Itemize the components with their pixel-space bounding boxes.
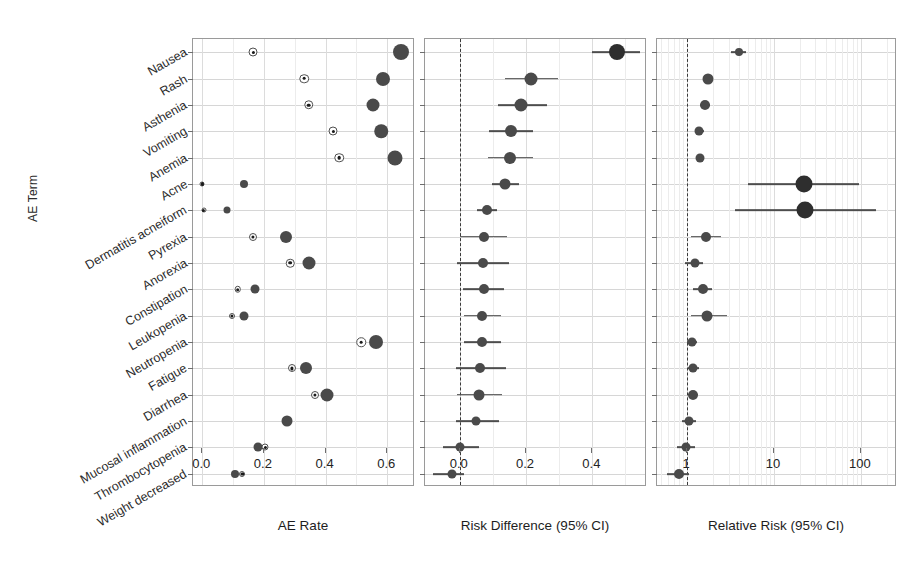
vertical-gridline — [835, 39, 836, 485]
horizontal-gridline — [425, 342, 645, 343]
y-axis-tick — [188, 52, 193, 53]
risk-difference-estimate-marker — [479, 232, 489, 242]
vertical-gridline — [739, 39, 740, 485]
ae-rate-treatment-marker — [282, 416, 293, 427]
ae-rate-treatment-marker — [223, 207, 230, 214]
relative-risk-estimate-marker — [690, 259, 699, 268]
marker-core — [307, 103, 310, 106]
risk-difference-estimate-marker — [482, 205, 492, 215]
ae-rate-control-marker — [249, 233, 257, 241]
y-axis-tick — [652, 52, 657, 53]
ae-rate-control-marker — [329, 127, 338, 136]
ae-rate-treatment-marker — [280, 231, 292, 243]
y-axis-tick — [188, 184, 193, 185]
y-axis-tick — [420, 105, 425, 106]
ae-rate-treatment-marker — [376, 72, 390, 86]
vertical-gridline — [729, 39, 730, 485]
plot-area-ae-rate — [193, 39, 413, 485]
y-axis-tick — [652, 105, 657, 106]
horizontal-gridline — [425, 237, 645, 238]
risk-difference-estimate-marker — [504, 152, 516, 164]
plot-area-risk-difference — [425, 39, 645, 485]
vertical-gridline — [774, 39, 775, 485]
marker-core — [201, 182, 204, 185]
y-axis-tick — [188, 342, 193, 343]
ae-rate-treatment-marker — [387, 150, 402, 165]
x-axis-tick-label: 0.6 — [377, 456, 395, 471]
marker-core — [302, 77, 305, 80]
vertical-gridline — [842, 39, 843, 485]
y-axis-tick — [188, 289, 193, 290]
ae-rate-treatment-marker — [300, 362, 312, 374]
horizontal-gridline — [657, 131, 895, 132]
horizontal-gridline — [657, 105, 895, 106]
y-axis-tick — [420, 158, 425, 159]
y-axis-tick — [652, 184, 657, 185]
marker-core — [252, 51, 255, 54]
horizontal-gridline — [425, 210, 645, 211]
ae-rate-treatment-marker — [231, 470, 239, 478]
relative-risk-estimate-marker — [795, 175, 812, 192]
y-axis-tick — [188, 368, 193, 369]
ae-rate-control-marker — [304, 100, 314, 110]
legend-cropped — [258, 2, 818, 16]
panel-ae-rate — [192, 38, 414, 486]
y-axis-tick — [420, 368, 425, 369]
vertical-gridline — [861, 39, 862, 485]
y-axis-tick — [188, 263, 193, 264]
vertical-gridline — [826, 39, 827, 485]
y-axis-tick — [420, 79, 425, 80]
y-axis-tick — [188, 316, 193, 317]
ae-rate-control-marker — [311, 391, 319, 399]
plot-area-relative-risk — [657, 39, 895, 485]
y-axis-tick — [652, 342, 657, 343]
marker-core — [313, 393, 316, 396]
y-axis-tick — [188, 158, 193, 159]
x-axis-tick-label: 10 — [766, 456, 780, 471]
x-axis-label-relative-risk: Relative Risk (95% CI) — [656, 518, 896, 533]
risk-difference-estimate-marker — [478, 258, 488, 268]
vertical-gridline — [559, 39, 560, 485]
y-axis-tick — [188, 131, 193, 132]
horizontal-gridline — [193, 158, 413, 159]
relative-risk-estimate-marker — [797, 202, 814, 219]
y-axis-tick — [652, 158, 657, 159]
risk-difference-estimate-marker — [525, 72, 538, 85]
x-axis-tick-label: 0.0 — [450, 456, 468, 471]
relative-risk-estimate-marker — [688, 338, 697, 347]
horizontal-gridline — [425, 158, 645, 159]
relative-risk-estimate-marker — [703, 73, 714, 84]
ae-rate-control-marker — [288, 364, 296, 372]
ae-rate-control-marker — [286, 259, 295, 268]
y-axis-tick — [652, 395, 657, 396]
vertical-gridline — [592, 39, 593, 485]
ae-rate-treatment-marker — [369, 335, 383, 349]
y-axis-tick — [188, 421, 193, 422]
relative-risk-estimate-marker — [689, 364, 698, 373]
horizontal-gridline — [657, 474, 895, 475]
ae-rate-treatment-marker — [321, 388, 334, 401]
marker-core — [332, 130, 335, 133]
vertical-gridline — [857, 39, 858, 485]
vertical-gridline — [295, 39, 296, 485]
y-axis-tick — [420, 184, 425, 185]
relative-risk-estimate-marker — [735, 48, 743, 56]
marker-core — [290, 367, 293, 370]
x-axis-label-ae-rate: AE Rate — [192, 518, 414, 533]
y-axis-tick — [420, 210, 425, 211]
horizontal-gridline — [193, 447, 413, 448]
horizontal-gridline — [193, 237, 413, 238]
x-axis-tick — [459, 448, 460, 453]
risk-difference-estimate-marker — [475, 363, 485, 373]
risk-difference-estimate-marker — [471, 417, 480, 426]
y-axis-tick — [420, 263, 425, 264]
y-axis-tick — [652, 368, 657, 369]
x-axis-tick — [386, 448, 387, 453]
vertical-gridline — [356, 39, 357, 485]
ae-rate-control-marker — [239, 471, 245, 477]
ae-rate-control-marker — [234, 286, 241, 293]
risk-difference-estimate-marker — [477, 337, 487, 347]
x-axis-tick-label: 100 — [849, 456, 871, 471]
ae-rate-treatment-marker — [374, 124, 388, 138]
ae-rate-control-marker — [229, 313, 235, 319]
